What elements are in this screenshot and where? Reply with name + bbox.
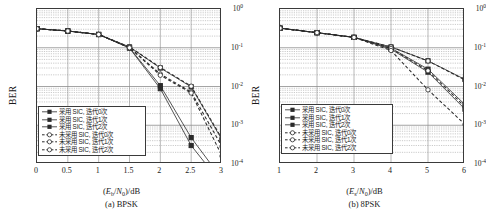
x-tick-label: 2 [314,166,318,175]
legend-item-label: 未采用 SIC, 迭代2次 [301,144,356,152]
data-point-marker [127,46,131,50]
x-tick-label: 2.5 [185,166,195,175]
data-point-marker [426,69,430,73]
data-point-marker [315,30,319,34]
x-tick-label: 2 [157,166,161,175]
legend-item-label: 采用 SIC, 迭代2次 [58,123,107,131]
legend-item-0[interactable]: 采用 SIC, 迭代0次 [41,108,143,116]
x-axis-label-8psk: (Es/N0)/dB [243,186,486,196]
data-point-marker [189,136,193,140]
x-tick-label: 1 [96,166,100,175]
xlabel-noise-subscript: 0 [122,191,125,197]
data-point-marker [189,143,193,147]
data-point-marker [158,87,162,91]
xlabel-noise-symbol: N [359,186,365,196]
x-tick-label: 1.5 [124,166,134,175]
xlabel-energy-subscript: b [111,191,114,197]
panel-bpsk: BER 10010-110-210-310-4 00.511.522.53 (E… [0,0,243,215]
legend-marker-icon [41,108,58,116]
panel-8psk: BER 10010-110-210-310-4 123456 (Es/N0)/d… [243,0,486,215]
legend-item-label: 采用 SIC, 迭代0次 [58,108,107,116]
legend-item-4[interactable]: 未采用 SIC, 迭代1次 [41,138,143,146]
legend-marker-icon [41,116,58,124]
data-point-marker [37,27,39,31]
data-point-marker [189,84,193,88]
legend-item-2[interactable]: 采用 SIC, 迭代2次 [41,123,143,131]
x-tick-label: 0 [34,166,38,175]
x-axis-label-bpsk: (Eb/N0)/dB [0,186,243,196]
legend-item-5[interactable]: 未采用 SIC, 迭代2次 [284,144,390,152]
data-point-marker [220,144,221,148]
data-point-marker [463,105,464,109]
legend-item-label: 未采用 SIC, 迭代1次 [58,138,113,146]
x-tick-label: 0.5 [62,166,72,175]
legend-item-2[interactable]: 采用 SIC, 迭代2次 [284,121,390,129]
legend-item-label: 未采用 SIC, 迭代2次 [58,146,113,154]
legend-item-label: 采用 SIC, 迭代0次 [301,106,350,114]
legend-marker-icon [41,131,58,139]
data-point-marker [220,138,221,142]
x-tick-label: 3 [219,166,223,175]
legend-item-label: 采用 SIC, 迭代2次 [301,121,350,129]
data-point-marker [66,29,70,33]
legend-item-label: 未采用 SIC, 迭代1次 [301,136,356,144]
xlabel-unit: )/dB [125,186,140,196]
data-point-marker [463,77,464,81]
xlabel-noise-subscript: 0 [365,191,368,197]
legend-marker-icon [284,106,301,114]
data-point-marker [220,136,221,140]
legend-bpsk: 采用 SIC, 迭代0次采用 SIC, 迭代1次采用 SIC, 迭代2次未采用 … [38,106,146,156]
caption-bpsk: (a) BPSK [0,199,243,209]
data-point-marker [426,88,430,92]
data-point-marker [389,48,393,52]
x-tick-label: 5 [425,166,429,175]
legend-marker-icon [284,136,301,144]
legend-marker-icon [284,129,301,137]
data-point-marker [220,154,221,158]
legend-item-4[interactable]: 未采用 SIC, 迭代1次 [284,136,390,144]
legend-marker-icon [41,138,58,146]
legend-marker-icon [41,146,58,154]
data-point-marker [463,78,464,82]
data-point-marker [352,35,356,39]
data-point-marker [463,122,464,126]
data-point-marker [158,73,162,77]
caption-8psk: (b) 8PSK [243,199,486,209]
ber-figure: BER 10010-110-210-310-4 00.511.522.53 (E… [0,0,486,215]
y-axis-label-bpsk: BER [8,86,18,105]
legend-marker-icon [284,114,301,122]
y-axis-label-8psk: BER [251,86,261,105]
x-tick-label: 1 [277,166,281,175]
data-point-marker [158,65,162,69]
data-point-marker [463,107,464,111]
legend-marker-icon [284,144,301,152]
data-point-marker [280,26,282,30]
legend-marker-icon [41,123,58,131]
x-tick-label: 3 [351,166,355,175]
series-line-1 [280,28,464,104]
data-point-marker [189,91,193,95]
data-point-marker [96,32,100,36]
legend-marker-icon [284,121,301,129]
xlabel-unit: )/dB [368,186,383,196]
data-point-marker [463,103,464,107]
legend-8psk: 采用 SIC, 迭代0次采用 SIC, 迭代1次采用 SIC, 迭代2次未采用 … [281,104,393,154]
data-point-marker [426,59,430,63]
x-tick-label: 6 [462,166,466,175]
x-tick-label: 4 [388,166,392,175]
legend-item-5[interactable]: 未采用 SIC, 迭代2次 [41,146,143,154]
xlabel-energy-subscript: s [354,191,356,197]
legend-item-0[interactable]: 采用 SIC, 迭代0次 [284,106,390,114]
